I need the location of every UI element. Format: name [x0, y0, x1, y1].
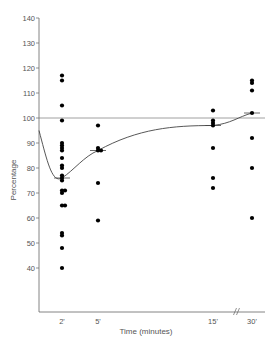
- data-point: [250, 88, 254, 92]
- data-point: [250, 166, 254, 170]
- data-point: [60, 233, 64, 237]
- data-point: [250, 216, 254, 220]
- data-point: [96, 181, 100, 185]
- data-point: [250, 136, 254, 140]
- y-tick-label: 60: [27, 214, 35, 223]
- data-point: [250, 81, 254, 85]
- data-point: [60, 246, 64, 250]
- x-axis-ticks: 2'5'15'30': [59, 317, 257, 326]
- data-point: [250, 111, 254, 115]
- data-point: [211, 186, 215, 190]
- x-tick-label: 15': [208, 317, 218, 326]
- data-point: [60, 266, 64, 270]
- data-point: [96, 123, 100, 127]
- y-axis-label: Percentage: [9, 159, 18, 200]
- y-tick-label: 80: [27, 164, 35, 173]
- x-tick-label: 30': [247, 317, 257, 326]
- axis-break-mark: [234, 308, 237, 315]
- y-tick-label: 110: [23, 89, 35, 98]
- x-tick-label: 5': [95, 317, 101, 326]
- y-tick-label: 40: [27, 264, 35, 273]
- mean-curve: [39, 113, 260, 179]
- y-axis-ticks: 405060708090100110120130140: [22, 14, 39, 273]
- x-tick-label: 2': [59, 317, 65, 326]
- data-point: [60, 178, 64, 182]
- data-point: [60, 78, 64, 82]
- data-point: [96, 218, 100, 222]
- y-tick-label: 50: [27, 239, 35, 248]
- y-tick-label: 70: [27, 189, 35, 198]
- y-tick-label: 130: [22, 39, 35, 48]
- data-point: [60, 156, 64, 160]
- data-points: [60, 73, 254, 270]
- data-point: [99, 148, 103, 152]
- data-point: [211, 146, 215, 150]
- data-point: [60, 103, 64, 107]
- data-point: [60, 191, 64, 195]
- data-point: [60, 73, 64, 77]
- axes: [39, 18, 265, 315]
- scatter-chart: 405060708090100110120130140 2'5'15'30' T…: [0, 0, 277, 346]
- data-point: [211, 176, 215, 180]
- x-axis-label: Time (minutes): [119, 327, 172, 336]
- y-tick-label: 140: [22, 14, 35, 23]
- y-tick-label: 100: [22, 114, 35, 123]
- data-point: [63, 203, 67, 207]
- data-point: [211, 108, 215, 112]
- data-point: [60, 166, 64, 170]
- y-tick-label: 120: [22, 64, 35, 73]
- data-point: [211, 123, 215, 127]
- axis-break-mark: [237, 308, 240, 315]
- y-tick-label: 90: [27, 139, 35, 148]
- data-point: [60, 148, 64, 152]
- data-point: [60, 118, 64, 122]
